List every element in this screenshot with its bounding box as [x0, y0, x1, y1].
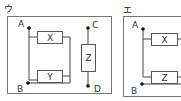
- terminal-b-label: B: [17, 84, 23, 94]
- wire-a-left: [143, 29, 151, 77]
- component-z-label: Z: [85, 53, 91, 63]
- terminal-a-dot: [141, 27, 145, 31]
- terminal-b-label: B: [131, 86, 137, 96]
- terminal-b-dot: [140, 82, 144, 86]
- component-x-label: X: [47, 33, 53, 43]
- terminal-a-label: A: [18, 19, 25, 29]
- terminal-d-label: D: [94, 84, 101, 94]
- wire-a-left: [29, 28, 37, 80]
- terminal-d-dot: [86, 84, 90, 88]
- panel-label: ウ: [4, 4, 13, 14]
- circuit-diagrams: ウ X Y Z A B C D エ X: [0, 0, 181, 101]
- terminal-b-dot: [26, 81, 30, 85]
- component-y-label: Y: [46, 72, 53, 82]
- terminal-a-dot: [27, 26, 31, 30]
- component-x-label: X: [161, 35, 167, 45]
- terminal-c-dot: [86, 26, 90, 30]
- panel-label: エ: [123, 5, 132, 15]
- panel-u: ウ X Y Z A B C D: [4, 4, 112, 94]
- component-z-label: Z: [161, 73, 167, 83]
- terminal-c-label: C: [92, 20, 98, 30]
- terminal-a-label: A: [132, 20, 139, 30]
- panel-e: エ X Z A B: [123, 5, 181, 97]
